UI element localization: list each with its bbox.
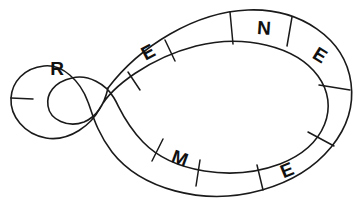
divider-bottom-2 <box>196 160 200 186</box>
figure-eight-svg: R E N E E M <box>0 0 359 213</box>
segment-letter-r: R <box>50 58 64 79</box>
figure-eight-diagram: R E N E E M <box>0 0 359 213</box>
divider-left-loop <box>11 98 33 99</box>
divider-right-1 <box>319 85 350 90</box>
divider-top-2 <box>287 17 292 46</box>
divider-top-1 <box>230 12 233 44</box>
divider-bottom-3 <box>152 139 163 161</box>
segment-letter-e-upper-right: E <box>309 43 331 68</box>
segment-letter-e-lower-right: E <box>277 158 297 182</box>
divider-upper-left-2 <box>165 40 175 61</box>
segment-letter-n: N <box>256 17 271 39</box>
